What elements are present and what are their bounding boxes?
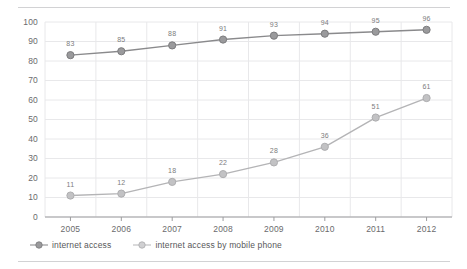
y-tick-label: 70 <box>12 75 38 85</box>
y-tick-label: 60 <box>12 95 38 105</box>
data-point-label: 83 <box>55 40 85 47</box>
legend-label: internet access by mobile phone <box>155 240 282 250</box>
legend-item-internet-access[interactable]: internet access <box>30 240 111 250</box>
data-point-label: 93 <box>259 21 289 28</box>
y-tick-label: 50 <box>12 114 38 124</box>
chart-figure: 0102030405060708090100 20052006200720082… <box>0 0 467 269</box>
y-tick-label: 80 <box>12 56 38 66</box>
data-point-label: 91 <box>208 25 238 32</box>
legend-label: internet access <box>52 240 111 250</box>
axes <box>45 217 452 221</box>
gridlines <box>45 22 452 217</box>
data-point-label: 22 <box>208 159 238 166</box>
chart-legend: internet access internet access by mobil… <box>30 240 282 250</box>
data-point-label: 95 <box>361 17 391 24</box>
y-tick-label: 100 <box>12 17 38 27</box>
x-tick-label: 2008 <box>203 224 243 234</box>
data-point-label: 18 <box>157 167 187 174</box>
x-tick-label: 2005 <box>50 224 90 234</box>
x-tick-label: 2009 <box>254 224 294 234</box>
data-point-label: 96 <box>412 15 442 22</box>
data-point-label: 94 <box>310 19 340 26</box>
x-tick-label: 2007 <box>152 224 192 234</box>
y-tick-label: 90 <box>12 36 38 46</box>
y-tick-label: 10 <box>12 192 38 202</box>
data-point-label: 12 <box>106 179 136 186</box>
x-tick-label: 2006 <box>101 224 141 234</box>
legend-marker-icon <box>133 240 151 250</box>
x-tick-label: 2010 <box>305 224 345 234</box>
data-point-label: 36 <box>310 132 340 139</box>
y-tick-label: 20 <box>12 173 38 183</box>
data-point-label: 51 <box>361 103 391 110</box>
legend-marker-icon <box>30 240 48 250</box>
y-tick-label: 0 <box>12 212 38 222</box>
y-tick-label: 40 <box>12 134 38 144</box>
x-tick-label: 2012 <box>407 224 447 234</box>
data-point-label: 28 <box>259 147 289 154</box>
y-tick-label: 30 <box>12 153 38 163</box>
data-point-label: 11 <box>55 181 85 188</box>
data-point-label: 88 <box>157 30 187 37</box>
x-tick-label: 2011 <box>356 224 396 234</box>
data-point-label: 85 <box>106 36 136 43</box>
data-point-label: 61 <box>412 83 442 90</box>
legend-item-internet-access-by-mobile-phone[interactable]: internet access by mobile phone <box>133 240 282 250</box>
